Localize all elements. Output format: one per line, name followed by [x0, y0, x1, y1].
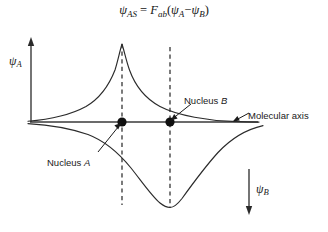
- psi-a-subscript: A: [16, 59, 21, 69]
- title-psi-as-subscript: AS: [127, 9, 137, 19]
- psi-a-axis-arrowhead: [28, 37, 34, 46]
- figure-container: ψAS = Fab(ψA−ψB) ψA ψB Nucleus A Nucleus…: [0, 0, 328, 232]
- title-psi-a: ψ: [171, 3, 179, 17]
- nucleus-b-letter: B: [221, 95, 227, 106]
- title-psi-as: ψ: [119, 3, 127, 17]
- psi-b-subscript: B: [263, 187, 268, 197]
- title-factor-f: F: [150, 3, 158, 17]
- molecular-axis-label: Molecular axis: [248, 110, 309, 121]
- nucleus-a-letter: A: [84, 157, 90, 168]
- upper-wavefunction-curve: [28, 44, 259, 122]
- title-psi-b: ψ: [191, 3, 199, 17]
- nucleus-b-label: Nucleus B: [184, 95, 227, 106]
- psi-b-axis-arrowhead: [246, 206, 252, 215]
- nucleus-a-label: Nucleus A: [47, 157, 90, 168]
- title-factor-subscript: ab: [158, 9, 167, 19]
- nucleus-a-leader-arrowhead: [114, 123, 121, 130]
- psi-b-axis-label: ψB: [256, 182, 269, 197]
- psi-a-axis-label: ψA: [9, 54, 22, 69]
- title-equals-sign: =: [140, 3, 147, 17]
- title-paren-close: ): [205, 3, 209, 17]
- nucleus-a-leader-line: [98, 127, 119, 153]
- molecular-axis-leader-arrowhead: [233, 116, 240, 122]
- title-equation: ψAS = Fab(ψA−ψB): [0, 3, 328, 19]
